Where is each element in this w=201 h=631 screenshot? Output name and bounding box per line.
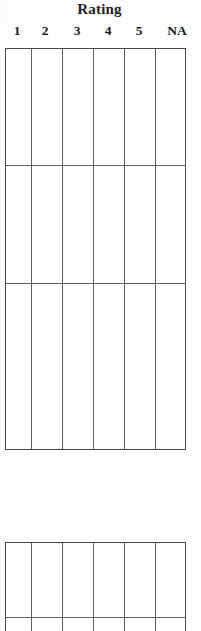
rating-cell[interactable] (94, 284, 124, 450)
column-header-row: 12345NA (0, 22, 201, 40)
rating-cell[interactable] (94, 618, 124, 631)
rating-cell[interactable] (63, 543, 93, 617)
rating-cell[interactable] (32, 618, 62, 631)
grid-cells (5, 542, 186, 631)
rating-cell[interactable] (32, 284, 62, 450)
rating-cell[interactable] (156, 49, 186, 165)
rating-cell[interactable] (125, 618, 155, 631)
grid-cells (5, 48, 186, 450)
rating-cell[interactable] (156, 618, 186, 631)
rating-form: Rating 12345NA (0, 0, 201, 631)
rating-cell[interactable] (94, 543, 124, 617)
rating-cell[interactable] (32, 543, 62, 617)
page-title-text: Rating (77, 1, 122, 17)
rating-cell[interactable] (32, 166, 62, 283)
rating-cell[interactable] (6, 166, 31, 283)
column-header-5: 5 (119, 22, 159, 39)
primary-rating-grid (5, 48, 186, 450)
rating-cell[interactable] (63, 618, 93, 631)
rating-cell[interactable] (6, 618, 31, 631)
rating-cell[interactable] (32, 49, 62, 165)
rating-cell[interactable] (63, 166, 93, 283)
column-header-na: NA (157, 22, 197, 39)
rating-cell[interactable] (94, 166, 124, 283)
rating-cell[interactable] (156, 543, 186, 617)
secondary-rating-grid (5, 542, 186, 631)
rating-cell[interactable] (125, 49, 155, 165)
rating-cell[interactable] (6, 49, 31, 165)
rating-cell[interactable] (156, 284, 186, 450)
rating-cell[interactable] (6, 284, 31, 450)
rating-cell[interactable] (63, 284, 93, 450)
rating-cell[interactable] (94, 49, 124, 165)
rating-cell[interactable] (125, 284, 155, 450)
rating-cell[interactable] (6, 543, 31, 617)
rating-cell[interactable] (63, 49, 93, 165)
rating-cell[interactable] (125, 543, 155, 617)
rating-cell[interactable] (125, 166, 155, 283)
rating-cell[interactable] (156, 166, 186, 283)
page-title: Rating (0, 1, 201, 18)
